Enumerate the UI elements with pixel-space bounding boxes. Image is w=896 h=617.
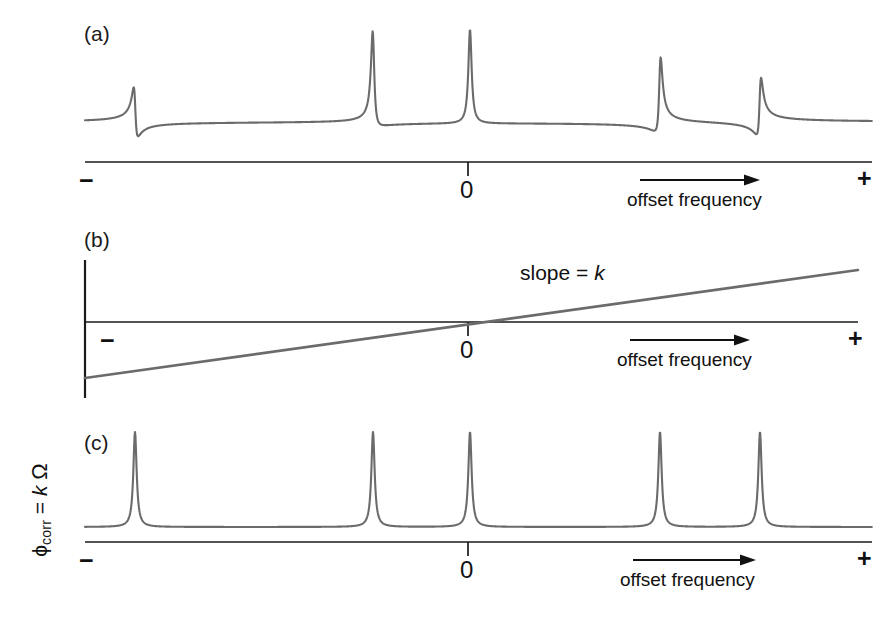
panel-c: (c) − 0 + offset frequency: [0, 415, 896, 617]
panel-b-plot: [0, 210, 896, 415]
axis-minus-mark-c: −: [79, 548, 94, 573]
spectrum-trace-a: [85, 31, 872, 137]
axis-minus-mark-a: −: [79, 168, 94, 193]
arrow-right-icon: [630, 335, 750, 346]
axis-zero-mark-b: 0: [460, 338, 473, 362]
panel-a: (a) − 0 + offset frequency: [0, 0, 896, 210]
axis-zero-mark-a: 0: [460, 178, 473, 202]
spectrum-trace-c: [85, 432, 872, 527]
figure-root: (a) − 0 + offset frequency (b) ϕcorr = k…: [0, 0, 896, 617]
arrow-right-icon: [640, 175, 760, 186]
axis-minus-mark-b: −: [100, 328, 115, 353]
axis-caption-b: offset frequency: [617, 350, 752, 369]
axis-plus-mark-c: +: [857, 546, 872, 571]
axis-caption-c: offset frequency: [620, 570, 755, 589]
panel-c-plot: [0, 415, 896, 617]
panel-a-plot: [0, 0, 896, 210]
panel-b: (b) ϕcorr = k Ω slope = k − 0: [0, 210, 896, 415]
axis-plus-mark-a: +: [857, 166, 872, 191]
axis-plus-mark-b: +: [848, 326, 863, 351]
arrow-right-icon: [633, 555, 756, 566]
slope-annotation-prefix: slope =: [520, 261, 594, 284]
slope-annotation-symbol: k: [594, 261, 605, 284]
axis-zero-mark-c: 0: [460, 558, 473, 582]
axis-caption-a: offset frequency: [627, 190, 762, 209]
slope-annotation-b: slope = k: [520, 262, 605, 283]
